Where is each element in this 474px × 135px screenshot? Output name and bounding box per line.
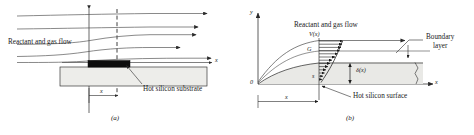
y-axis-label: y	[250, 9, 253, 16]
gas-point-label: G	[307, 46, 311, 53]
panel-b-flow-label: Reactant and gas flow	[294, 22, 358, 30]
figure-container: Reactant and gas flow Hot silicon substr…	[0, 0, 474, 135]
surface-leader-line	[322, 86, 351, 97]
x-axis-label: x	[435, 79, 438, 86]
panel-a-caption: (a)	[100, 114, 130, 122]
hot-silicon-bar	[88, 61, 130, 68]
boundary-layer-fill	[258, 63, 423, 85]
delta-label: δ(x)	[356, 67, 366, 74]
panel-a-x-dim-label: x	[100, 88, 103, 95]
panel-a: Reactant and gas flow Hot silicon substr…	[0, 0, 237, 135]
streamline-4	[17, 48, 180, 57]
hot-silicon-surface-label: Hot silicon surface	[353, 93, 407, 101]
panel-a-substrate-label: Hot silicon substrate	[143, 86, 202, 94]
boundary-layer-label-line2: layer	[433, 43, 447, 51]
velocity-label: V(x)	[309, 31, 320, 38]
panel-b: y x 0 Reactant and gas flow V(x) G s δ(x…	[237, 0, 474, 135]
s-point-label: s	[312, 73, 314, 80]
panel-b-x-dim-label: x	[285, 94, 288, 101]
substrate-block	[60, 67, 207, 86]
panel-a-x-axis-label: x	[215, 57, 218, 64]
boundary-layer-label-line1: Boundary	[426, 34, 454, 42]
streamline-2	[17, 27, 198, 29]
origin-label: 0	[250, 79, 253, 86]
panel-a-flow-label: Reactant and gas flow	[8, 39, 72, 47]
streamline-1	[17, 14, 207, 17]
panel-b-caption: (b)	[335, 114, 365, 122]
